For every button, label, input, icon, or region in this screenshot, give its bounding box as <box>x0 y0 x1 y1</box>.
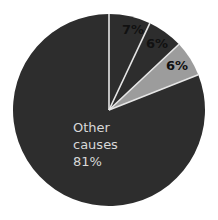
pie-slices <box>13 14 205 206</box>
slice-label-6b: 6% <box>166 58 188 73</box>
other-causes-label-line3: 81% <box>73 154 102 169</box>
other-causes-label-line1: Other <box>73 120 111 135</box>
slice-label-7: 7% <box>122 22 144 37</box>
other-causes-label-line2: causes <box>73 137 118 152</box>
slice-label-6a: 6% <box>146 36 168 51</box>
pie-chart: 7% 6% 6% Other causes 81% <box>0 0 218 220</box>
